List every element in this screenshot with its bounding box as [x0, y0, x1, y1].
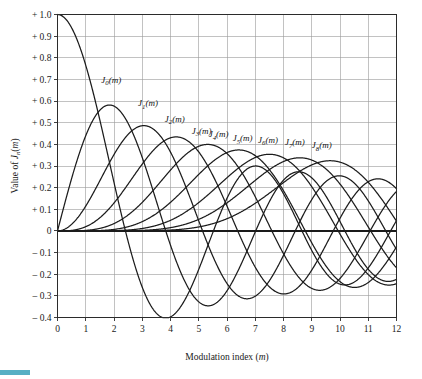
x-tick-label: 8 — [281, 324, 286, 334]
y-tick-label: + 0.8 — [32, 53, 52, 63]
x-tick-label: 4 — [168, 324, 173, 334]
y-tick-label: + 0.9 — [32, 32, 52, 42]
accent-bar — [0, 370, 30, 375]
y-tick-label: + 1.0 — [32, 10, 52, 20]
x-tick-label: 3 — [140, 324, 145, 334]
y-tick-label: 0 — [47, 226, 52, 236]
curve-label-j6m: J6(m) — [258, 135, 278, 146]
x-tick-label: 1 — [83, 324, 88, 334]
x-tick-label: 0 — [55, 324, 60, 334]
x-tick-label: 12 — [392, 324, 402, 334]
x-tick-label: 10 — [335, 324, 345, 334]
y-tick-label: + 0.1 — [32, 205, 52, 215]
bessel-function-figure: 0123456789101112 + 1.0+ 0.9+ 0.8+ 0.7+ 0… — [0, 0, 422, 379]
x-tick-label: 2 — [112, 324, 117, 334]
y-tick-label: – 0.4 — [32, 313, 52, 323]
curve-label-j1m: J1(m) — [138, 98, 158, 109]
y-tick-label: + 0.4 — [32, 140, 52, 150]
curve-label-j8m: J8(m) — [312, 140, 332, 151]
curve-label-j2m: J2(m) — [165, 114, 185, 125]
y-axis-tick-labels: + 1.0+ 0.9+ 0.8+ 0.7+ 0.6+ 0.5+ 0.4+ 0.3… — [32, 10, 58, 323]
y-axis-title: Value of Jn(m) — [10, 138, 21, 193]
x-axis-title: Modulation index (m) — [185, 352, 268, 363]
y-tick-label: – 0.2 — [32, 270, 52, 280]
y-tick-label: – 0.3 — [32, 291, 52, 301]
x-tick-label: 7 — [253, 324, 258, 334]
x-tick-label: 11 — [364, 324, 373, 334]
x-axis-tick-labels: 0123456789101112 — [55, 318, 401, 334]
curve-label-j0m: J0(m) — [101, 75, 121, 86]
y-tick-label: + 0.6 — [32, 96, 52, 106]
y-tick-label: + 0.5 — [32, 118, 52, 128]
y-tick-label: – 0.1 — [32, 248, 52, 258]
chart-canvas: 0123456789101112 + 1.0+ 0.9+ 0.8+ 0.7+ 0… — [0, 0, 422, 379]
y-tick-label: + 0.7 — [32, 75, 52, 85]
curve-label-j7m: J7(m) — [285, 137, 305, 148]
curve-label-j5m: J5(m) — [233, 133, 253, 144]
curve-label-j4m: J4(m) — [209, 129, 229, 140]
y-tick-label: + 0.2 — [32, 183, 52, 193]
x-tick-label: 6 — [225, 324, 230, 334]
x-tick-label: 9 — [309, 324, 314, 334]
y-tick-label: + 0.3 — [32, 161, 52, 171]
x-tick-label: 5 — [196, 324, 201, 334]
